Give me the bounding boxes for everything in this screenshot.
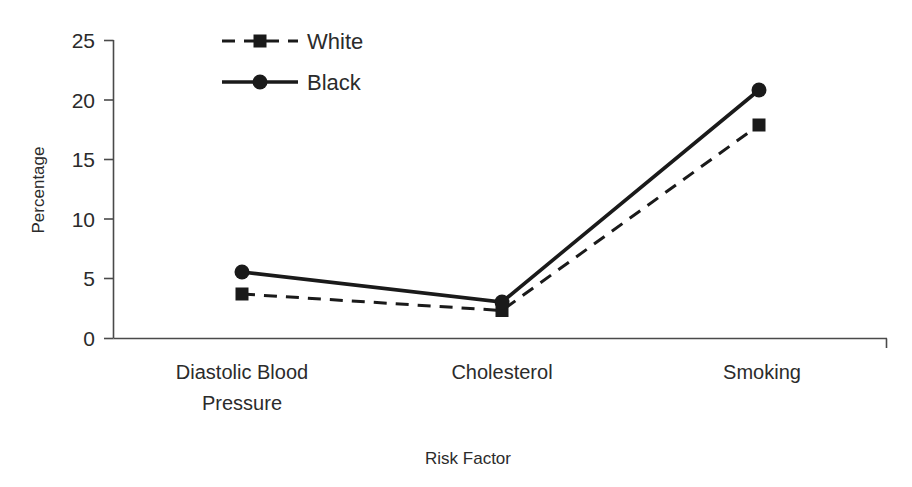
legend: White Black: [222, 29, 363, 95]
series-black: [235, 83, 767, 310]
legend-white-marker-square: [254, 35, 267, 48]
series-black-point-1: [495, 295, 510, 310]
legend-item-black: Black: [222, 70, 362, 95]
series-black-point-2: [752, 83, 767, 98]
series-black-point-0: [235, 265, 250, 280]
x-category-label-group: Diastolic Blood Pressure Cholesterol Smo…: [176, 361, 801, 414]
legend-black-marker-circle: [253, 75, 268, 90]
chart-figure: 25 20 15 10 5 0 Percentage Diastolic Blo…: [0, 0, 912, 487]
series-white-point-2: [753, 119, 766, 132]
legend-item-white: White: [222, 29, 363, 54]
legend-black-label: Black: [307, 70, 362, 95]
y-tick-label-5: 5: [83, 267, 95, 290]
series-black-line: [242, 90, 759, 302]
y-axis-title: Percentage: [29, 147, 48, 234]
line-chart-canvas: 25 20 15 10 5 0 Percentage Diastolic Blo…: [0, 0, 912, 487]
x-category-label-2: Smoking: [723, 361, 801, 383]
x-axis-title: Risk Factor: [425, 449, 511, 468]
series-white-point-0: [236, 288, 249, 301]
y-tick-group: [104, 41, 114, 339]
y-tick-label-15: 15: [72, 148, 95, 171]
y-tick-label-25: 25: [72, 29, 95, 52]
y-tick-label-20: 20: [72, 89, 95, 112]
y-tick-label-0: 0: [83, 327, 95, 350]
legend-white-label: White: [307, 29, 363, 54]
y-tick-label-group: 25 20 15 10 5 0: [72, 29, 95, 350]
x-category-label-0-line2: Pressure: [202, 392, 282, 414]
x-category-label-0-line1: Diastolic Blood: [176, 361, 308, 383]
y-tick-label-10: 10: [72, 208, 95, 231]
x-category-label-1: Cholesterol: [451, 361, 552, 383]
